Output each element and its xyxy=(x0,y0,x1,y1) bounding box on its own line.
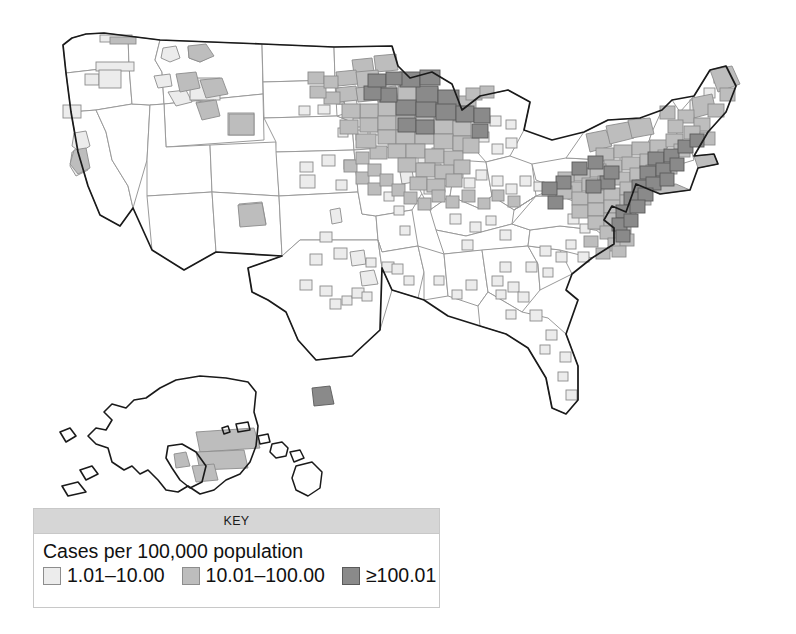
legend-swatch-mid xyxy=(182,567,200,585)
legend-header: KEY xyxy=(34,509,439,534)
legend-class-mid: 10.01–100.00 xyxy=(182,566,325,586)
legend-class-list: 1.01–10.00 10.01–100.00 ≥100.01 xyxy=(43,566,439,586)
legend-class-high: ≥100.01 xyxy=(342,566,436,586)
lyme-incidence-figure: KEY Cases per 100,000 population 1.01–10… xyxy=(0,0,796,634)
legend-label-mid: 10.01–100.00 xyxy=(206,566,325,586)
legend-class-low: 1.01–10.00 xyxy=(43,566,165,586)
legend-body: Cases per 100,000 population 1.01–10.00 … xyxy=(34,534,439,586)
legend-label-low: 1.01–10.00 xyxy=(67,566,165,586)
us-county-choropleth-map xyxy=(0,0,796,505)
legend-swatch-low xyxy=(43,567,61,585)
legend-label-high: ≥100.01 xyxy=(366,566,436,586)
legend-title: Cases per 100,000 population xyxy=(43,541,439,561)
map-svg xyxy=(0,0,796,505)
legend-swatch-high xyxy=(342,567,360,585)
map-legend: KEY Cases per 100,000 population 1.01–10… xyxy=(33,508,440,608)
